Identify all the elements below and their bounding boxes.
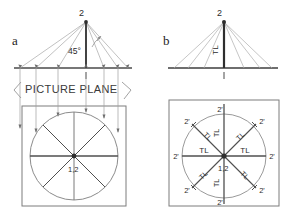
endpoint-label-b-sw: 2' bbox=[184, 186, 190, 195]
apex-label-b: 2 bbox=[217, 8, 222, 18]
panel-b-plan: 1,2 TL TL TL TL TL TL TL TL 2' 2' 2' 2' … bbox=[169, 100, 279, 207]
cone-line-b-5 bbox=[224, 22, 260, 68]
figure-svg: a 2 45° bbox=[0, 0, 293, 216]
projector-arrow-a-5 bbox=[117, 129, 120, 134]
panel-b: b 2 TL bbox=[163, 8, 279, 207]
plan-center-point-a bbox=[72, 154, 77, 159]
angle-label-a: 45° bbox=[68, 46, 81, 56]
plan-center-label-a: 1,2 bbox=[68, 165, 78, 174]
endpoint-label-b-n: 2' bbox=[217, 105, 223, 114]
tl-label-b-w: TL bbox=[199, 146, 209, 155]
cone-line-b-6 bbox=[224, 22, 272, 68]
tl-label-b-sw: TL bbox=[198, 170, 209, 181]
cone-line-a-3 bbox=[58, 22, 86, 68]
tl-label-b-se: TL bbox=[239, 170, 250, 181]
projector-arrow-a-3 bbox=[85, 109, 88, 114]
panel-a-letter: a bbox=[12, 33, 18, 48]
technical-drawing-figure: a 2 45° bbox=[0, 0, 293, 216]
projector-arrow-a-4 bbox=[103, 115, 106, 120]
cone-line-a-1 bbox=[20, 22, 86, 68]
endpoint-label-b-e: 2' bbox=[269, 152, 275, 161]
apex-point-b bbox=[222, 20, 226, 24]
cone-line-b-4 bbox=[224, 22, 244, 68]
cone-line-a-2 bbox=[36, 22, 86, 68]
cone-line-a-6 bbox=[86, 22, 128, 68]
plan-center-point-b bbox=[221, 153, 226, 158]
tl-label-b-n: TL bbox=[213, 129, 220, 137]
panel-a-elevation: 2 45° bbox=[14, 8, 132, 79]
tl-label-b-elevation: TL bbox=[211, 45, 220, 55]
cone-line-a-4 bbox=[86, 22, 104, 68]
plan-center-label-b: 1,2 bbox=[218, 164, 228, 173]
endpoint-label-b-ne: 2' bbox=[259, 117, 265, 126]
tl-label-b-ne: TL bbox=[235, 131, 246, 142]
endpoint-label-b-se: 2' bbox=[259, 186, 265, 195]
cone-line-b-2 bbox=[188, 22, 224, 68]
endpoint-label-b-s: 2' bbox=[217, 198, 223, 207]
cone-line-b-3 bbox=[204, 22, 224, 68]
pp-right-leader bbox=[122, 82, 131, 99]
panel-b-letter: b bbox=[163, 33, 170, 48]
tl-label-b-s: TL bbox=[213, 179, 220, 187]
panel-b-elevation: 2 TL bbox=[168, 8, 278, 79]
endpoint-label-b-nw: 2' bbox=[184, 117, 190, 126]
picture-plane-callout: PICTURE PLANE bbox=[14, 82, 131, 99]
tl-label-b-e: TL bbox=[240, 146, 250, 155]
projector-arrow-a-6 bbox=[19, 125, 22, 130]
base-arrowhead-a bbox=[84, 64, 87, 67]
apex-label-a: 2 bbox=[79, 8, 84, 18]
cone-line-a-5 bbox=[86, 22, 118, 68]
apex-point-a bbox=[84, 20, 88, 24]
panel-a: a 2 45° bbox=[12, 8, 132, 206]
cone-line-b-1 bbox=[174, 22, 224, 68]
tl-label-b-nw: TL bbox=[202, 131, 213, 142]
endpoint-label-b-w: 2' bbox=[173, 152, 179, 161]
